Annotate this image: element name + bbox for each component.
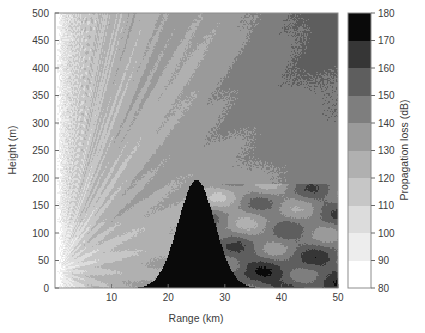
y-tick-label: 200 bbox=[32, 173, 49, 184]
y-tick-label: 0 bbox=[43, 283, 49, 294]
colorbar-tick-label: 80 bbox=[378, 283, 390, 294]
colorbar-band bbox=[348, 13, 371, 41]
colorbar-tick-label: 140 bbox=[378, 118, 395, 129]
x-tick-label: 40 bbox=[276, 292, 288, 303]
colorbar-tick-label: 170 bbox=[378, 35, 395, 46]
y-tick-label: 100 bbox=[32, 228, 49, 239]
propagation-loss-figure: 1020304050 05010015020025030035040045050… bbox=[0, 0, 425, 333]
y-axis-title: Height (m) bbox=[6, 125, 18, 174]
colorbar-band bbox=[348, 261, 371, 289]
propagation-loss-field bbox=[55, 13, 338, 288]
colorbar-band bbox=[348, 68, 371, 96]
x-tick-label: 50 bbox=[332, 292, 344, 303]
colorbar-band bbox=[348, 206, 371, 234]
y-tick-label: 500 bbox=[32, 8, 49, 19]
x-tick-label: 10 bbox=[106, 292, 118, 303]
colorbar-title: Propagation loss (dB) bbox=[398, 100, 410, 201]
plot-canvas: 1020304050 05010015020025030035040045050… bbox=[0, 0, 425, 333]
colorbar-band bbox=[348, 96, 371, 124]
colorbar-tick-label: 130 bbox=[378, 145, 395, 156]
colorbar-tick-label: 110 bbox=[378, 200, 394, 211]
colorbar-band bbox=[348, 233, 371, 261]
colorbar-tick-label: 150 bbox=[378, 90, 395, 101]
colorbar-tick-label: 100 bbox=[378, 228, 395, 239]
colorbar-band bbox=[348, 123, 371, 151]
colorbar-band bbox=[348, 178, 371, 206]
y-tick-label: 450 bbox=[32, 35, 49, 46]
colorbar-tick-label: 120 bbox=[378, 173, 395, 184]
colorbar-tick-label: 160 bbox=[378, 63, 395, 74]
colorbar-tick-label: 90 bbox=[378, 255, 390, 266]
y-tick-label: 300 bbox=[32, 118, 49, 129]
x-tick-label: 20 bbox=[163, 292, 175, 303]
y-tick-label: 250 bbox=[32, 145, 49, 156]
y-tick-label: 50 bbox=[38, 255, 50, 266]
colorbar-band bbox=[348, 151, 371, 179]
colorbar-band bbox=[348, 41, 371, 69]
x-axis-title: Range (km) bbox=[169, 312, 224, 324]
y-tick-label: 150 bbox=[32, 200, 49, 211]
colorbar[interactable] bbox=[348, 13, 371, 288]
x-tick-label: 30 bbox=[219, 292, 231, 303]
colorbar-tick-label: 180 bbox=[378, 8, 395, 19]
y-tick-label: 350 bbox=[32, 90, 49, 101]
y-tick-label: 400 bbox=[32, 63, 49, 74]
